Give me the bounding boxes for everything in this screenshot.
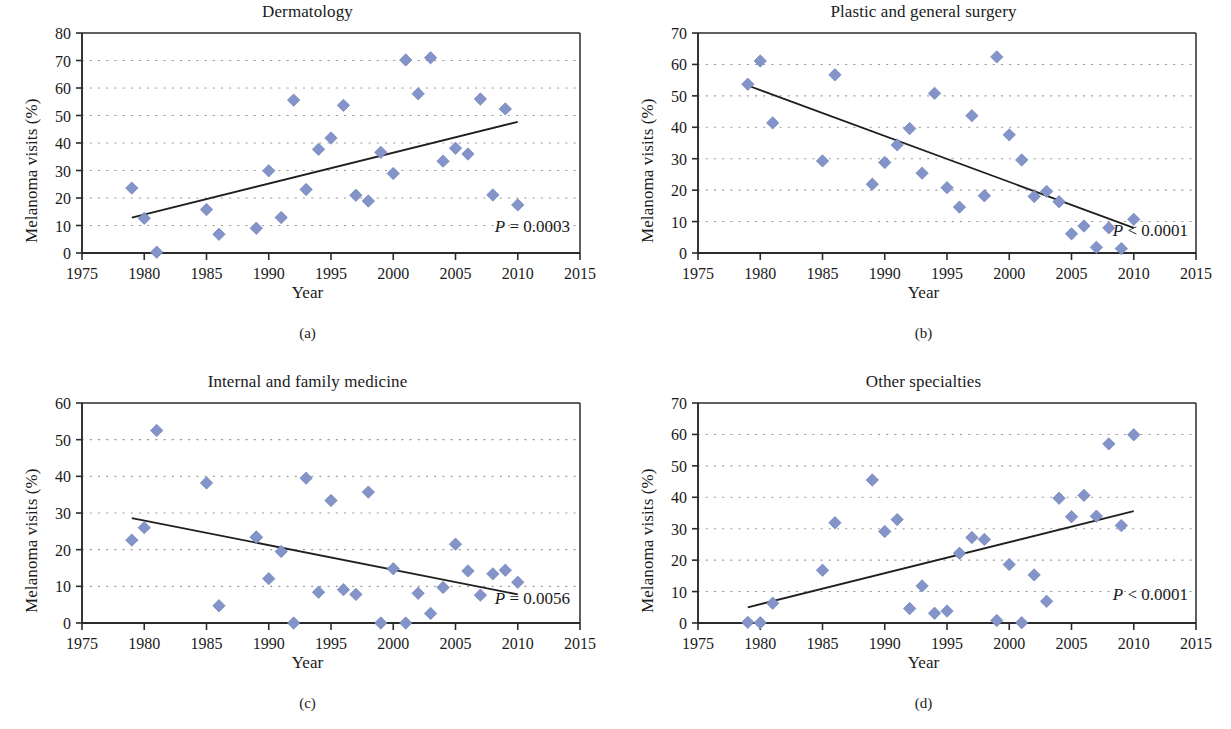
data-point-marker [1053,492,1065,504]
data-point-marker [953,201,965,213]
data-point-marker [1040,185,1052,197]
panel-c-xlabel: Year [0,653,615,673]
data-point-marker [275,211,287,223]
y-tick-label: 80 [55,25,71,42]
panel-a: Dermatology Melanoma visits (%) 01020304… [0,0,615,365]
y-tick-label: 50 [55,432,71,449]
data-point-marker [362,195,374,207]
x-tick-label: 1995 [315,635,347,652]
x-tick-label: 2000 [377,265,409,282]
x-tick-label: 1990 [869,265,901,282]
data-point-marker [375,617,387,629]
data-point-marker [903,602,915,614]
panel-a-plot: 0102030405060708019751980198519901995200… [0,0,615,300]
x-tick-label: 1985 [807,265,839,282]
y-tick-label: 70 [671,25,687,42]
y-tick-label: 20 [671,552,687,569]
data-point-marker [151,246,163,258]
data-point-marker [462,565,474,577]
y-tick-label: 10 [55,218,71,235]
y-tick-label: 40 [671,119,687,136]
y-tick-label: 0 [63,615,71,632]
x-tick-label: 1980 [128,265,160,282]
p-value-annotation: P < 0.0001 [1112,221,1188,240]
x-tick-label: 2000 [993,265,1025,282]
panel-b: Plastic and general surgery Melanoma vis… [616,0,1231,365]
data-point-marker [462,148,474,160]
x-tick-label: 2005 [1056,635,1088,652]
data-point-marker [966,531,978,543]
data-point-marker [1128,429,1140,441]
data-point-marker [891,139,903,151]
data-point-marker [449,538,461,550]
data-point-marker [1065,511,1077,523]
data-point-marker [1115,519,1127,531]
data-point-marker [816,564,828,576]
data-point-marker [325,494,337,506]
x-tick-label: 2005 [440,265,472,282]
data-point-marker [512,199,524,211]
data-point-marker [263,165,275,177]
data-point-marker [953,547,965,559]
y-tick-label: 30 [671,151,687,168]
data-point-marker [879,156,891,168]
data-point-marker [991,614,1003,626]
panel-a-subcaption: (a) [0,325,615,342]
panel-a-xlabel: Year [0,283,615,303]
x-tick-label: 1980 [744,265,776,282]
data-point-marker [400,617,412,629]
y-tick-label: 70 [55,53,71,70]
data-point-marker [325,132,337,144]
y-tick-label: 50 [55,108,71,125]
panel-b-xlabel: Year [616,283,1231,303]
trend-line [132,122,518,218]
data-point-marker [424,52,436,64]
y-tick-label: 10 [55,578,71,595]
data-point-marker [742,616,754,628]
x-tick-label: 1975 [682,265,714,282]
data-point-marker [437,581,449,593]
data-point-marker [1090,241,1102,253]
data-point-marker [126,182,138,194]
panel-d-plot: 0102030405060701975198019851990199520002… [616,362,1231,672]
data-point-marker [767,597,779,609]
trend-line [748,511,1134,607]
x-tick-label: 1975 [682,635,714,652]
data-point-marker [474,589,486,601]
data-point-marker [412,587,424,599]
y-tick-label: 0 [679,615,687,632]
data-point-marker [1040,595,1052,607]
data-point-marker [978,190,990,202]
y-tick-label: 60 [55,80,71,97]
data-point-marker [449,142,461,154]
data-point-marker [1103,438,1115,450]
data-point-marker [1016,154,1028,166]
x-tick-label: 2010 [1118,635,1150,652]
y-tick-label: 50 [671,458,687,475]
data-point-marker [1078,489,1090,501]
y-tick-label: 20 [55,542,71,559]
data-point-marker [424,607,436,619]
x-tick-label: 1980 [128,635,160,652]
x-tick-label: 2005 [440,635,472,652]
data-point-marker [437,155,449,167]
x-tick-label: 2010 [1118,265,1150,282]
data-point-marker [200,203,212,215]
data-point-marker [474,93,486,105]
data-point-marker [829,517,841,529]
panel-d-subcaption: (d) [616,695,1231,712]
data-point-marker [312,586,324,598]
x-tick-label: 2000 [377,635,409,652]
y-tick-label: 20 [55,190,71,207]
x-tick-label: 1990 [253,635,285,652]
data-point-marker [941,181,953,193]
data-point-marker [754,55,766,67]
y-tick-label: 20 [671,182,687,199]
y-tick-label: 50 [671,88,687,105]
data-point-marker [138,521,150,533]
data-point-marker [263,572,275,584]
x-tick-label: 2010 [502,635,534,652]
data-point-marker [754,616,766,628]
x-tick-label: 2015 [1180,635,1212,652]
y-tick-label: 30 [55,163,71,180]
